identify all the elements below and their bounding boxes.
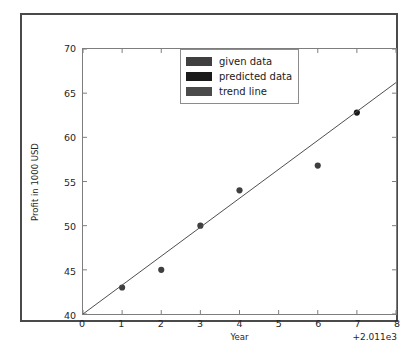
y-tick-label: 65: [36, 87, 76, 98]
y-axis-label: Profit in 1000 USD: [30, 143, 40, 221]
data-point: [158, 267, 164, 273]
x-tick-label: 5: [276, 318, 282, 329]
x-tick-label: 7: [355, 318, 361, 329]
data-point: [315, 163, 321, 169]
x-tick-label: 2: [158, 318, 164, 329]
y-tick-label: 45: [36, 265, 76, 276]
x-tick-label: 8: [394, 318, 400, 329]
legend-label: predicted data: [219, 72, 292, 82]
x-axis-label: Year: [231, 332, 249, 342]
legend-item: predicted data: [186, 69, 292, 84]
y-tick-label: 55: [36, 176, 76, 187]
y-tick-label: 60: [36, 132, 76, 143]
y-tick-label: 70: [36, 43, 76, 54]
x-tick-label: 0: [79, 318, 85, 329]
x-axis-offset-label: +2.011e3: [327, 332, 397, 342]
data-point: [236, 187, 242, 193]
legend-label: trend line: [219, 87, 267, 97]
x-tick-label: 4: [236, 318, 242, 329]
x-tick-label: 3: [197, 318, 203, 329]
legend-item: given data: [186, 54, 292, 69]
y-tick-label: 40: [36, 310, 76, 321]
legend-swatch-icon: [186, 87, 212, 96]
legend-label: given data: [219, 57, 272, 67]
legend-swatch-icon: [186, 72, 212, 81]
figure-frame: 40455055606570 012345678 Profit in 1000 …: [20, 13, 398, 322]
chart-legend: given datapredicted datatrend line: [180, 49, 299, 104]
data-series: [83, 83, 396, 314]
legend-swatch-icon: [186, 57, 212, 66]
legend-item: trend line: [186, 84, 292, 99]
trend-line: [83, 83, 396, 314]
y-tick-label: 50: [36, 221, 76, 232]
x-tick-label: 6: [315, 318, 321, 329]
x-tick-label: 1: [118, 318, 124, 329]
